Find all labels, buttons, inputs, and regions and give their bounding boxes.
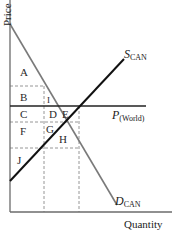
y-axis-label: Price xyxy=(2,3,13,26)
region-a: A xyxy=(20,67,28,78)
region-e: E xyxy=(62,109,69,120)
dashed-guides xyxy=(10,86,79,212)
region-g: G xyxy=(46,124,54,135)
region-d: D xyxy=(49,109,57,120)
region-f: F xyxy=(20,126,26,137)
world-price-label: P(World) xyxy=(112,109,144,123)
region-b: B xyxy=(20,92,27,103)
region-h: H xyxy=(59,134,67,145)
region-i: I xyxy=(47,96,50,105)
x-axis-label: Quantity xyxy=(124,219,163,230)
region-j: J xyxy=(17,155,21,166)
region-c: C xyxy=(20,109,27,120)
supply-label: SCAN xyxy=(124,48,147,62)
demand-label: DCAN xyxy=(115,195,141,209)
